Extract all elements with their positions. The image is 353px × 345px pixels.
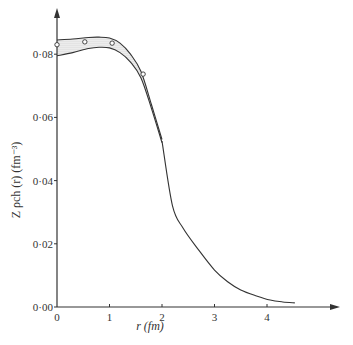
data-point bbox=[55, 43, 59, 47]
x-tick-label: 0 bbox=[54, 311, 60, 323]
data-point bbox=[110, 41, 114, 45]
y-tick-label: 0·06 bbox=[33, 111, 54, 123]
curve-layer bbox=[162, 141, 295, 303]
data-point bbox=[83, 40, 87, 44]
x-axis-arrow-icon bbox=[330, 304, 340, 310]
x-tick-label: 4 bbox=[264, 311, 270, 323]
error-band-lower-line bbox=[57, 47, 162, 143]
y-axis-label: Z ρch (r) (fm⁻³) bbox=[9, 142, 23, 219]
y-axis-arrow-icon bbox=[54, 8, 60, 18]
x-tick-label: 1 bbox=[107, 311, 113, 323]
axes-layer: 012340·000·020·040·060·08 bbox=[33, 8, 340, 323]
y-tick-label: 0·02 bbox=[33, 238, 53, 250]
y-tick-label: 0·04 bbox=[33, 175, 54, 187]
density-chart: 012340·000·020·040·060·08 r (fm) Z ρch (… bbox=[0, 0, 353, 345]
x-tick-label: 3 bbox=[212, 311, 218, 323]
x-axis-label: r (fm) bbox=[136, 319, 164, 333]
data-point bbox=[141, 72, 145, 76]
y-tick-label: 0·00 bbox=[33, 301, 54, 313]
error-band-layer bbox=[57, 37, 162, 143]
y-tick-label: 0·08 bbox=[33, 48, 54, 60]
density-curve bbox=[162, 141, 295, 303]
